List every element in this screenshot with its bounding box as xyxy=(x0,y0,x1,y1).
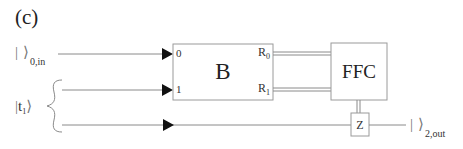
port-base: R xyxy=(258,81,266,95)
ket-subscript: 0,in xyxy=(30,56,45,67)
port-out-r1: R1 xyxy=(258,82,270,99)
port-sub: 1 xyxy=(266,88,270,97)
port-base: R xyxy=(258,45,266,59)
port-in-0: 0 xyxy=(176,47,182,59)
ket-subscript: 2,out xyxy=(425,128,445,139)
ket-bar: | xyxy=(410,116,413,132)
ket-input-0: |⟩0,in xyxy=(15,44,45,70)
ket-bar: | xyxy=(15,44,18,60)
block-z-title: Z xyxy=(351,118,369,132)
block-ffc-title: FFC xyxy=(331,62,387,82)
ket-angle: ⟩ xyxy=(26,98,32,114)
ket-input-t1: |t1⟩ xyxy=(15,98,32,120)
arrow-icon xyxy=(162,84,173,96)
brace-icon xyxy=(47,80,62,132)
port-in-1: 1 xyxy=(176,83,182,95)
ket-output: |⟩2,out xyxy=(410,116,445,142)
ket-angle: ⟩ xyxy=(23,44,29,60)
arrow-icon xyxy=(162,48,173,60)
port-sub: 0 xyxy=(266,52,270,61)
ket-angle: ⟩ xyxy=(418,116,424,132)
port-out-r0: R0 xyxy=(258,46,270,63)
arrow-icon xyxy=(163,119,174,131)
panel-label: (c) xyxy=(15,5,38,29)
